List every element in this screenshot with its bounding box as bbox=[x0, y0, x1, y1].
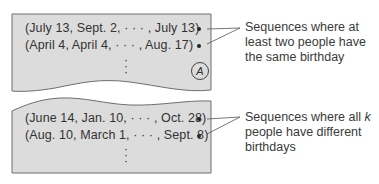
panel-b-label: Sequences where all k people have differ… bbox=[245, 110, 377, 155]
panel-a-label: Sequences where at least two people have… bbox=[245, 20, 377, 65]
panel-b-label-variable: k bbox=[365, 110, 371, 124]
bullet-a2 bbox=[197, 44, 201, 48]
connector-b2 bbox=[207, 117, 240, 134]
connector-b1 bbox=[207, 117, 240, 119]
panel-b-label-suffix: people have different birthdays bbox=[245, 125, 362, 154]
panel-b-vertical-ellipsis: ··· bbox=[121, 146, 131, 164]
panel-b-label-prefix: Sequences where all bbox=[245, 110, 365, 124]
panel-a-sequence-1: (July 13, Sept. 2, · · · , July 13) bbox=[25, 21, 199, 35]
panel-a-vertical-ellipsis: ··· bbox=[121, 57, 131, 75]
panel-b-sequence-2: (Aug. 10, March 1, · · · , Sept. 8) bbox=[25, 128, 208, 142]
panel-a-badge: A bbox=[191, 62, 209, 80]
panel-a-sequence-2: (April 4, April 4, · · · , Aug. 17) bbox=[25, 38, 193, 52]
connector-a1 bbox=[207, 28, 240, 29]
connector-a2 bbox=[207, 28, 240, 44]
panel-b-sequence-1: (June 14, Jan. 10, · · · , Oct. 28) bbox=[25, 111, 206, 125]
